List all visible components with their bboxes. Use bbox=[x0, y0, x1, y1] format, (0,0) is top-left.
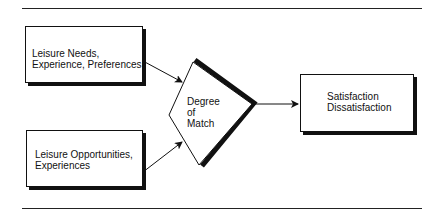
label-line: Match bbox=[187, 118, 220, 129]
label-line: of bbox=[187, 107, 220, 118]
leisure-opportunities-label: Leisure Opportunities, Experiences bbox=[35, 149, 133, 171]
leisure-needs-label: Leisure Needs, Experience, Preferences bbox=[32, 48, 142, 70]
label-line: Dissatisfaction bbox=[327, 102, 391, 113]
label-line: Degree bbox=[187, 96, 220, 107]
arrow-opportunities-to-match bbox=[143, 142, 182, 172]
satisfaction-label: Satisfaction Dissatisfaction bbox=[327, 91, 391, 113]
satisfaction-box: Satisfaction Dissatisfaction bbox=[300, 74, 414, 132]
label-line: Experience, Preferences bbox=[32, 59, 142, 70]
label-line: Satisfaction bbox=[327, 91, 391, 102]
leisure-opportunities-box: Leisure Opportunities, Experiences bbox=[26, 130, 143, 187]
label-line: Leisure Needs, bbox=[32, 48, 142, 59]
label-line: Experiences bbox=[35, 160, 133, 171]
arrow-needs-to-match bbox=[143, 61, 182, 82]
leisure-needs-box: Leisure Needs, Experience, Preferences bbox=[25, 26, 143, 83]
label-line: Leisure Opportunities, bbox=[35, 149, 133, 160]
degree-of-match-label: Degree of Match bbox=[187, 96, 220, 129]
